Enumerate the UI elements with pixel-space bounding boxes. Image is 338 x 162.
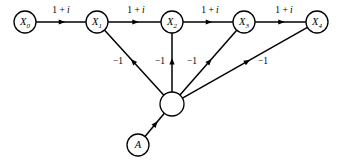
flow-graph-canvas: X0X1X2X3X4A1 + i1 + i1 + i1 + i−1−1−1−1 [0, 0, 338, 162]
edge-weight-label: 1 + i [127, 5, 145, 15]
node-circle [160, 92, 184, 116]
edge-weight-label: 1 + i [52, 5, 70, 15]
node-label: A [134, 139, 142, 150]
edges-layer [36, 22, 307, 137]
edge-weight-label: −1 [187, 56, 197, 66]
arrowhead-icon [206, 19, 213, 24]
arrowhead-icon [243, 60, 250, 65]
arrowhead-icon [132, 19, 139, 24]
node-a: A [127, 134, 149, 156]
edge-weight-label: −1 [113, 56, 123, 66]
nodes-layer: X0X1X2X3X4A [14, 11, 328, 156]
node-hub [160, 92, 184, 116]
edge-weight-label: 1 + i [275, 5, 293, 15]
node-x1: X1 [86, 11, 108, 33]
arrowhead-icon [169, 58, 174, 65]
node-x4: X4 [306, 11, 328, 33]
edge-weight-label: 1 + i [201, 5, 219, 15]
arrowhead-icon [59, 19, 66, 24]
node-x3: X3 [233, 11, 255, 33]
arrowhead-icon [278, 19, 285, 24]
node-x2: X2 [161, 11, 183, 33]
edge-weight-label: −1 [155, 56, 165, 66]
edge-weight-label: −1 [258, 56, 268, 66]
signal-flow-diagram: X0X1X2X3X4A1 + i1 + i1 + i1 + i−1−1−1−1 [0, 0, 338, 162]
node-x0: X0 [14, 11, 36, 33]
